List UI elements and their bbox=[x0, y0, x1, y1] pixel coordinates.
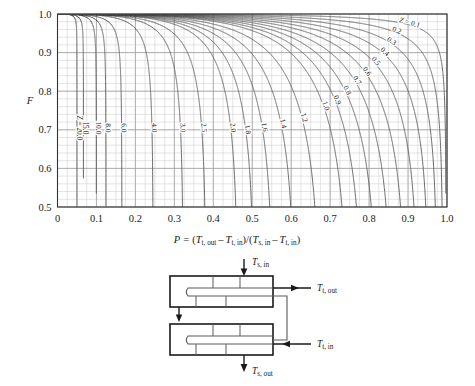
shell-top-body bbox=[170, 276, 273, 307]
x-tick-label: 1.0 bbox=[440, 213, 453, 224]
x-tick-label: 0.6 bbox=[285, 213, 298, 224]
shell-interpass-arrow bbox=[176, 307, 182, 322]
shell-top bbox=[170, 276, 273, 307]
lmtd-correction-factor-figure: Z = 20.0Z = 20.015.015.010.010.08.08.06.… bbox=[0, 0, 475, 386]
curve-label-group: Z = 20.0Z = 20.015.015.010.010.08.08.06.… bbox=[75, 15, 421, 140]
x-tick-label: 0.8 bbox=[363, 213, 376, 224]
label-shell-in: Ts, in bbox=[252, 257, 270, 269]
y-tick-label: 0.5 bbox=[38, 202, 51, 213]
curve-label-z-1-8: 1.8 bbox=[243, 124, 253, 135]
curve-label-z-2-5: 2.5 bbox=[199, 123, 209, 133]
x-axis-label: P=(Tt, out–Tt, in)/(Ts, in–Tt, in) bbox=[173, 234, 301, 247]
y-tick-label: 1.0 bbox=[38, 9, 51, 20]
x-tick-label-group: 00.10.20.30.40.50.60.70.80.91.0 bbox=[55, 213, 454, 224]
y-tick-label: 0.6 bbox=[38, 163, 51, 174]
shell-top-tube-bundle bbox=[187, 288, 273, 296]
x-tick-label: 0 bbox=[55, 213, 60, 224]
y-tick-label: 0.9 bbox=[38, 47, 51, 58]
curve-label-z-0-5: 0.5 bbox=[370, 55, 383, 68]
curve-label-z-1-6: 1.6 bbox=[260, 122, 270, 133]
curve-label-z-2: 2.0 bbox=[228, 122, 238, 132]
label-tube-in: Tt, in bbox=[317, 339, 334, 351]
curve-label-z-1-4: 1.4 bbox=[278, 118, 289, 129]
shell-bottom-body bbox=[170, 324, 273, 355]
curve-z-15 bbox=[58, 14, 84, 178]
curve-label-z-6: 6.0 bbox=[120, 123, 129, 133]
y-tick-label: 0.8 bbox=[38, 86, 51, 97]
label-shell-out: Ts, out bbox=[252, 366, 273, 378]
shell-out-arrow bbox=[241, 355, 248, 372]
label-tube-out: Tt, out bbox=[317, 283, 337, 295]
curve-label-z-0-9: 0.9 bbox=[332, 94, 344, 106]
x-tick-label: 0.5 bbox=[246, 213, 259, 224]
x-tick-label: 0.9 bbox=[401, 213, 414, 224]
figure-root: Z = 20.0Z = 20.015.015.010.010.08.08.06.… bbox=[0, 0, 475, 386]
x-tick-label: 0.1 bbox=[90, 213, 103, 224]
curve-label-z-0-4: 0.4 bbox=[379, 45, 392, 58]
curve-label-z-4: 4.0 bbox=[150, 123, 159, 133]
shell-bottom bbox=[170, 324, 273, 355]
curve-label-z-1-2: 1.2 bbox=[299, 112, 310, 123]
svg-text:P=(Tt, out–Tt, in)/(Ts, in–Tt,: P=(Tt, out–Tt, in)/(Ts, in–Tt, in) bbox=[173, 234, 301, 247]
inter-shell-tube-connector bbox=[273, 296, 287, 340]
y-tick-label-group: 0.50.60.70.80.91.0 bbox=[38, 9, 51, 213]
x-tick-label: 0.3 bbox=[168, 213, 181, 224]
curve-label-z-3: 3.0 bbox=[178, 123, 187, 133]
shell-in-arrow bbox=[241, 259, 248, 276]
x-tick-label: 0.2 bbox=[129, 213, 142, 224]
x-tick-label: 0.7 bbox=[324, 213, 337, 224]
curve-label-z-10: 10.0 bbox=[94, 121, 103, 134]
curve-z-8 bbox=[58, 14, 106, 206]
curve-label-z-15: 15.0 bbox=[81, 121, 90, 134]
heat-exchanger-diagram: Ts, in Tt, out Tt, in Ts, out bbox=[170, 257, 337, 378]
y-tick-label: 0.7 bbox=[38, 124, 51, 135]
curve-label-z-0-8: 0.8 bbox=[341, 84, 353, 97]
y-axis-label: F bbox=[26, 95, 34, 106]
shell-bottom-tube-bundle bbox=[187, 336, 273, 344]
curve-label-z-0-2: 0.2 bbox=[391, 24, 403, 36]
tube-out-arrow bbox=[273, 285, 311, 291]
tube-in-arrow bbox=[273, 341, 311, 347]
curve-label-z-0-3: 0.3 bbox=[385, 35, 398, 48]
x-tick-label: 0.4 bbox=[207, 213, 221, 224]
curve-label-z-8: 8.0 bbox=[104, 123, 113, 133]
